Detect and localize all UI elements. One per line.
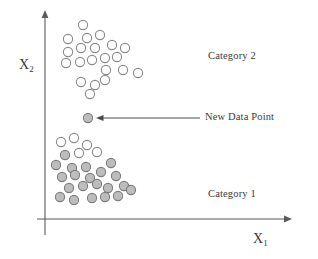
data-point-filled-circle	[106, 158, 115, 167]
category-2-label: Category 2	[208, 50, 256, 61]
data-point-open-circle	[101, 65, 110, 74]
category-1-label: Category 1	[208, 188, 256, 199]
data-point-open-circle	[75, 57, 84, 66]
data-point-open-circle	[90, 43, 99, 52]
data-points-category-2	[61, 20, 142, 98]
new-data-point-label: New Data Point	[205, 111, 274, 122]
data-point-open-circle	[74, 148, 83, 157]
data-point-open-circle	[90, 80, 99, 89]
data-point-new[interactable]	[83, 113, 92, 122]
data-point-filled-circle	[60, 150, 69, 159]
data-point-filled-circle	[126, 185, 135, 194]
data-point-filled-circle	[100, 192, 109, 201]
data-point-open-circle	[82, 140, 91, 149]
data-point-open-circle	[61, 58, 70, 67]
data-point-filled-circle	[70, 170, 79, 179]
data-point-filled-circle	[69, 195, 78, 204]
data-point-filled-circle	[113, 191, 122, 200]
data-point-open-circle	[69, 133, 78, 142]
data-point-filled-circle	[64, 183, 73, 192]
x-axis-label-subscript: 1	[263, 238, 268, 248]
data-point-filled-circle	[103, 183, 112, 192]
data-point-open-circle	[63, 34, 72, 43]
data-point-open-circle	[92, 147, 101, 156]
data-point-filled-circle	[57, 172, 66, 181]
scatter-plot-svg	[0, 0, 318, 259]
callout-arrowhead-icon	[96, 115, 104, 121]
y-axis-label-base: X	[19, 57, 29, 72]
data-point-filled-circle	[51, 160, 60, 169]
y-axis-label-subscript: 2	[29, 64, 34, 74]
data-point-filled-circle	[55, 192, 64, 201]
data-point-open-circle	[76, 77, 85, 86]
data-points-category-1	[51, 133, 135, 204]
data-point-open-circle	[63, 47, 72, 56]
data-point-open-circle	[82, 33, 91, 42]
data-point-filled-circle	[96, 167, 105, 176]
data-point-open-circle	[120, 43, 129, 52]
data-point-filled-circle	[92, 179, 101, 188]
data-point-open-circle	[133, 68, 142, 77]
figure-canvas: X2 X1 Category 2 Category 1 New Data Poi…	[0, 0, 318, 259]
data-point-open-circle	[56, 137, 65, 146]
data-point-open-circle	[100, 75, 109, 84]
data-point-open-circle	[107, 40, 116, 49]
data-point-filled-circle	[111, 171, 120, 180]
data-point-open-circle	[85, 89, 94, 98]
data-point-open-circle	[95, 30, 104, 39]
data-point-open-circle	[112, 52, 121, 61]
data-point-open-circle	[76, 43, 85, 52]
x-axis-label-base: X	[253, 231, 263, 246]
data-point-filled-circle[interactable]	[83, 113, 92, 122]
x-axis-arrowhead-icon	[284, 216, 292, 223]
callout-arrow	[96, 115, 200, 121]
y-axis-arrowhead-icon	[42, 10, 49, 18]
data-point-open-circle	[100, 53, 109, 62]
y-axis-label: X2	[19, 57, 34, 74]
data-point-filled-circle	[78, 181, 87, 190]
data-point-open-circle	[78, 20, 87, 29]
data-point-open-circle	[118, 65, 127, 74]
data-point-open-circle	[87, 55, 96, 64]
x-axis-label: X1	[253, 231, 268, 248]
data-point-filled-circle	[81, 162, 90, 171]
data-point-filled-circle	[87, 193, 96, 202]
